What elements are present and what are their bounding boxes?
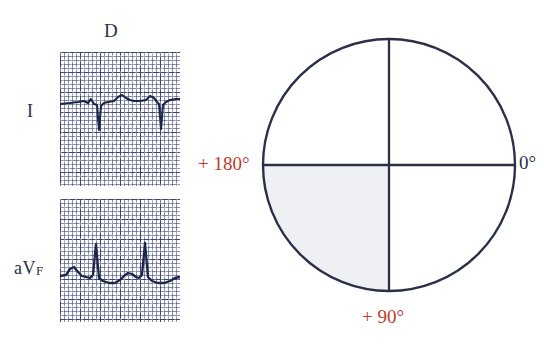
shaded-quadrant-right-axis-deviation [263,165,389,291]
ecg-waveform-path [60,243,180,283]
ecg-trace-lead-i [60,52,180,186]
degree-label-180: + 180° [198,153,250,175]
lead-avf-label: aVF [14,258,44,279]
ecg-waveform-path [60,95,180,130]
degree-label-0: 0° [519,152,536,174]
hexaxial-reference-circle [250,20,544,320]
lead-i-label: I [27,101,34,122]
lead-avf-prefix: aV [14,258,36,278]
ecg-axis-figure: D I aVF + 180° 0° + 90° [0,0,544,353]
degree-label-90: + 90° [362,306,404,328]
lead-avf-suffix: F [36,263,44,278]
lead-d-column-label: D [104,20,118,42]
ecg-strip-lead-i [60,52,180,186]
ecg-strip-lead-avf [60,199,180,322]
ecg-trace-lead-avf [60,199,180,322]
